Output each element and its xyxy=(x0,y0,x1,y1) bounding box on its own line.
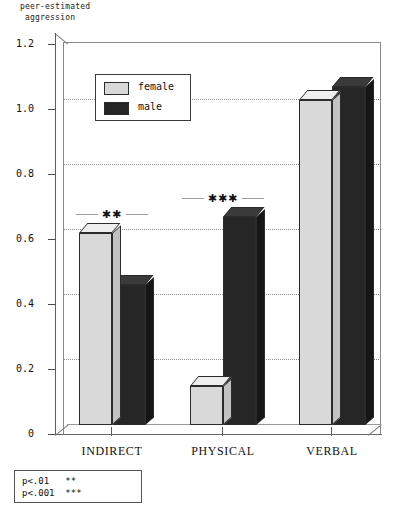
category-tick xyxy=(331,427,332,436)
category-label-verbal: VERBAL xyxy=(287,444,377,459)
legend-label-female: female xyxy=(138,81,174,92)
significance-bracket-left xyxy=(76,214,98,215)
bar-side-face xyxy=(365,79,374,425)
significance-bracket-left xyxy=(182,198,204,199)
legend-swatch-male xyxy=(104,102,129,115)
y-axis-tick-label: 0.8 xyxy=(0,168,34,179)
bar-indirect-female xyxy=(79,233,112,425)
bar-side-face xyxy=(256,209,265,425)
significance-stars: ✱✱✱ xyxy=(208,192,239,205)
footnote-line-2: p<.001 *** xyxy=(22,488,82,498)
legend-label-male: male xyxy=(138,101,162,112)
y-axis-tick-label: 0.6 xyxy=(0,233,34,244)
category-tick xyxy=(111,427,112,436)
x-axis-line xyxy=(55,434,382,435)
category-label-physical: PHYSICAL xyxy=(178,444,268,459)
significance-stars: ✱✱ xyxy=(102,208,122,221)
plot-depth-edge-top-left xyxy=(55,33,67,43)
y-axis-title: peer-estimated aggression xyxy=(20,1,90,23)
y-axis-tick-label: 0 xyxy=(0,428,34,439)
bar-front-face xyxy=(299,100,332,425)
significance-marker-physical: ✱✱✱ xyxy=(176,188,270,206)
y-axis-tick-label: 0.4 xyxy=(0,298,34,309)
bar-side-face xyxy=(112,225,121,425)
bar-verbal-female xyxy=(299,100,332,425)
chart-plot-area: INDIRECTPHYSICALVERBAL ✱✱✱✱✱ female male xyxy=(37,33,381,435)
bar-physical-female xyxy=(190,386,223,425)
bar-side-face xyxy=(332,92,341,425)
bar-front-face xyxy=(79,233,112,425)
y-axis-line xyxy=(55,33,56,434)
category-tick xyxy=(222,427,223,436)
legend-swatch-female xyxy=(104,82,129,95)
category-label-indirect: INDIRECT xyxy=(67,444,157,459)
y-axis-tick-label: 1.0 xyxy=(0,103,34,114)
significance-marker-indirect: ✱✱ xyxy=(65,204,159,222)
significance-bracket-right xyxy=(126,214,148,215)
y-axis-tick-label: 0.2 xyxy=(0,363,34,374)
y-axis-tick-label: 1.2 xyxy=(0,38,34,49)
significance-bracket-right xyxy=(242,198,264,199)
significance-footnote: p<.01 ** p<.001 *** xyxy=(14,470,142,503)
bar-side-face xyxy=(223,378,232,425)
bar-front-face xyxy=(190,386,223,425)
chart-legend: female male xyxy=(95,74,191,121)
footnote-line-1: p<.01 ** xyxy=(22,476,76,486)
bar-side-face xyxy=(145,277,154,425)
